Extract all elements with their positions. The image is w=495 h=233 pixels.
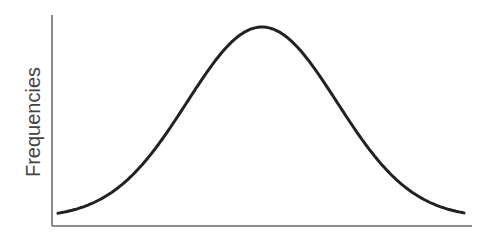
y-axis-label: Frequencies (22, 67, 44, 177)
bell-curve-chart: Frequencies (0, 0, 495, 233)
distribution-curve (58, 27, 464, 213)
